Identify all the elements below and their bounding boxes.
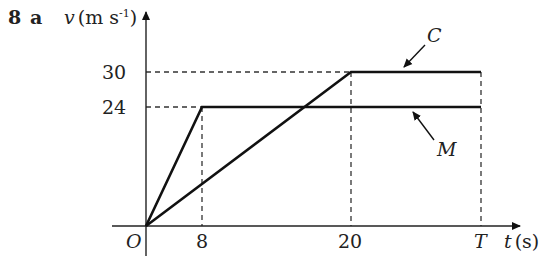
x-tick-8: 8	[196, 230, 208, 252]
dashed-guides	[146, 72, 481, 226]
origin-label: O	[126, 230, 142, 252]
y-tick-30: 30	[102, 61, 126, 83]
series-m-pointer-arrow	[413, 112, 434, 140]
y-tick-24: 24	[102, 96, 126, 118]
series-m-line	[146, 107, 481, 226]
y-axis-label: v(m s-1)	[64, 6, 137, 28]
series-c-pointer-arrow	[404, 45, 425, 67]
x-axis-label: t(s)	[504, 230, 539, 252]
question-number: 8	[8, 6, 21, 28]
x-tick-T: T	[474, 230, 488, 252]
x-tick-20: 20	[338, 230, 362, 252]
series-c-line	[146, 72, 481, 226]
series-c-label: C	[427, 24, 442, 46]
series-m-label: M	[436, 138, 457, 160]
question-part: a	[30, 6, 42, 28]
velocity-time-graph: 8 a v(m s-1) 30 24 O 8 20 T t(s) C M	[0, 0, 544, 257]
